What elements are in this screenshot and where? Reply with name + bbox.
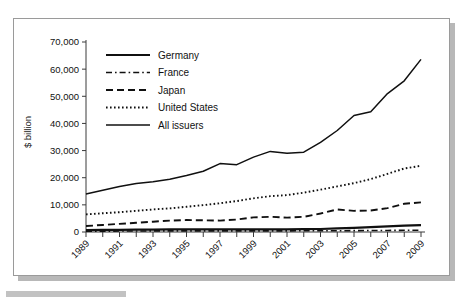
y-tick-label: 10,000 [50,199,79,210]
legend-entry[interactable]: United States [106,102,218,113]
legend-label-united-states: United States [158,102,218,113]
legend-entry[interactable]: Germany [106,50,199,61]
legend-label-japan: Japan [158,85,185,96]
y-tick-label: 40,000 [50,118,79,129]
series-line-france [86,230,421,231]
x-tick-label: 1997 [203,238,226,261]
legend-entry[interactable]: All issuers [106,120,204,131]
y-tick-label: 50,000 [50,91,79,102]
legend-entry[interactable]: France [106,67,190,78]
legend-label-germany: Germany [158,50,199,61]
x-tick-label: 1989 [69,238,92,261]
y-tick-label: 0 [74,226,79,237]
y-tick-label: 70,000 [50,36,79,47]
legend-label-france: France [158,67,190,78]
y-tick-label: 60,000 [50,64,79,75]
legend-label-all-issuers: All issuers [158,120,204,131]
x-tick-label: 1991 [102,238,125,261]
series-line-japan [86,202,421,226]
x-tick-label: 2001 [270,238,293,261]
x-tick-label: 1993 [136,238,159,261]
x-tick-label: 2009 [404,238,427,261]
legend-entry[interactable]: Japan [106,85,185,96]
y-tick-label: 30,000 [50,145,79,156]
y-tick-label: 20,000 [50,172,79,183]
x-tick-label: 2003 [303,238,326,261]
x-tick-label: 1995 [169,238,192,261]
series-line-germany [86,225,421,230]
series-line-all-issuers [86,59,421,194]
series-line-united-states [86,166,421,215]
x-tick-label: 1999 [236,238,259,261]
figure-root: 010,00020,00030,00040,00050,00060,00070,… [0,0,468,301]
x-tick-label: 2007 [370,238,393,261]
line-chart: 010,00020,00030,00040,00050,00060,00070,… [0,0,468,301]
y-axis-title: $ billion [22,116,33,148]
x-tick-label: 2005 [337,238,360,261]
